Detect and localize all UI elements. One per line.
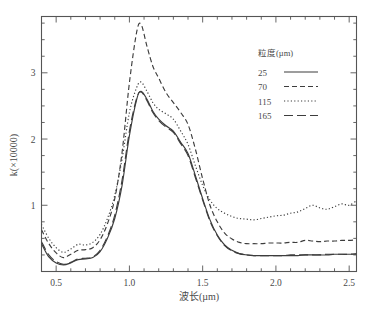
x-tick-label: 0.5 [50,278,62,288]
x-tick-label: 2.0 [270,278,282,288]
legend-title: 粒度(µm) [258,48,293,58]
x-tick-label: 2.5 [343,278,355,288]
legend-label-25um: 25 [258,68,268,78]
y-tick-label: 1 [31,201,36,211]
y-axis-title: k(×10000) [8,134,20,176]
legend-label-70um: 70 [258,82,268,92]
x-tick-label: 1.0 [123,278,135,288]
y-tick-label: 2 [31,135,36,145]
x-axis-title: 波长(µm) [179,290,219,303]
legend-label-165um: 165 [258,111,272,121]
x-tick-label: 1.5 [197,278,209,288]
chart-background [0,0,374,322]
legend-label-115um: 115 [258,97,272,107]
scientific-chart: 0.51.01.52.02.5 123 波长(µm) k(×10000) 粒度(… [0,0,374,322]
y-tick-label: 3 [31,68,36,78]
